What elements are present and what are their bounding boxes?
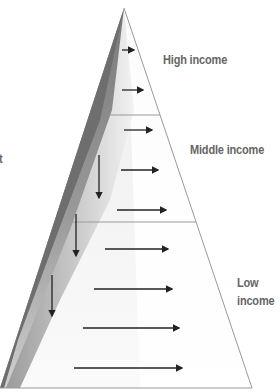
tier-label-low-line1: Low (237, 274, 274, 292)
cropped-left-text: t (0, 150, 2, 168)
income-pyramid-diagram (0, 0, 280, 392)
tier-label-low: Low income (237, 274, 274, 310)
tier-label-high: High income (163, 51, 227, 69)
tier-label-middle: Middle income (190, 141, 264, 159)
tier-label-low-line2: income (237, 292, 274, 310)
